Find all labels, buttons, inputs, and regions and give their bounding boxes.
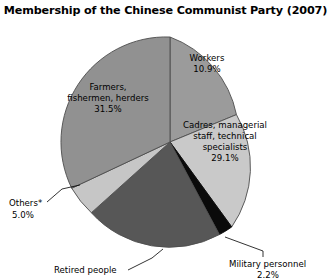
slice-label-others-value: 5.0% [12, 210, 34, 220]
slice-label-farmers-value: 31.5% [94, 104, 121, 114]
pie-chart-svg: Workers 10.9% Cadres, managerial staff, … [0, 0, 331, 280]
slice-label-workers-name: Workers [190, 53, 225, 63]
leader-line-retired [128, 249, 163, 270]
slice-label-workers-value: 10.9% [193, 64, 220, 74]
slice-callout-military: Military personnel 2.2% [225, 237, 306, 280]
leader-line-military [225, 237, 263, 257]
slice-label-workers: Workers 10.9% [190, 53, 225, 74]
pie-chart-figure: Membership of the Chinese Communist Part… [0, 0, 331, 280]
slice-label-farmers-line2: fishermen, herders [67, 93, 149, 103]
slice-label-retired-name: Retired people [54, 265, 117, 275]
slice-callout-others: Others* 5.0% [9, 185, 80, 220]
slice-callout-retired: Retired people [54, 249, 163, 275]
slice-label-military-name: Military personnel [229, 259, 306, 269]
slice-label-others-name: Others* [9, 198, 43, 208]
slice-label-farmers-line1: Farmers, [89, 82, 126, 92]
slice-label-cadres-line1: Cadres, managerial [183, 120, 267, 130]
slice-label-cadres-line3: specialists [203, 142, 248, 152]
slice-label-cadres-line2: staff, technical [193, 131, 257, 141]
slice-label-military-value: 2.2% [257, 270, 279, 280]
slice-label-cadres-value: 29.1% [211, 153, 238, 163]
